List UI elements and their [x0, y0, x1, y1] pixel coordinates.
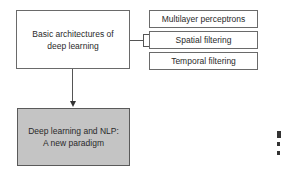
connector-line: [130, 40, 143, 41]
bracket-bottom: [143, 46, 149, 47]
node-label: Multilayer perceptrons: [162, 14, 246, 24]
node-label: Spatial filtering: [176, 35, 232, 45]
node-temporal-filtering: Temporal filtering: [149, 52, 258, 70]
clipped-caption-fragment: [277, 131, 281, 138]
clipped-caption-fragment: [277, 142, 280, 146]
node-label: Temporal filtering: [171, 56, 236, 66]
arrow-line: [72, 69, 73, 102]
node-basic-architectures: Basic architectures of deep learning: [16, 10, 130, 69]
node-label-line1: Deep learning and NLP:: [28, 125, 119, 137]
node-label-line2: A new paradigm: [28, 137, 119, 149]
node-multilayer-perceptrons: Multilayer perceptrons: [149, 10, 258, 28]
clipped-caption-fragment: [277, 151, 280, 155]
node-deep-learning-nlp: Deep learning and NLP: A new paradigm: [17, 108, 130, 166]
arrow-down-icon: [70, 101, 76, 107]
bracket-top: [143, 34, 149, 35]
node-label-line1: Basic architectures of: [32, 28, 113, 40]
node-label-line2: deep learning: [32, 40, 113, 52]
node-spatial-filtering: Spatial filtering: [149, 31, 258, 49]
